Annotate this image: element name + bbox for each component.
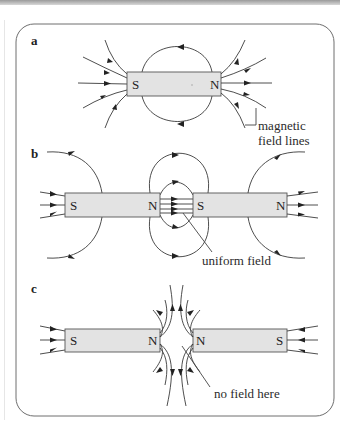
field-line xyxy=(221,40,245,74)
field-line xyxy=(47,152,102,193)
panel-c: c S N N S xyxy=(31,281,318,406)
field-line-loop xyxy=(149,217,208,257)
field-line xyxy=(221,93,245,128)
pole-s: S xyxy=(132,77,139,92)
field-line-loop xyxy=(160,215,193,228)
bar-magnet-left xyxy=(65,193,160,217)
panel-c-label: c xyxy=(31,281,37,296)
pole-s: S xyxy=(70,333,77,348)
bar-magnet-right xyxy=(193,329,287,352)
field-line xyxy=(78,83,127,84)
panel-a: a S N magnetic xyxy=(31,33,310,148)
field-line-loop-top xyxy=(142,47,212,73)
field-line-loop xyxy=(149,153,208,193)
field-line xyxy=(160,348,167,385)
field-line-loop-bottom xyxy=(142,96,212,122)
field-line xyxy=(160,344,171,406)
panel-a-label: a xyxy=(31,33,38,48)
pole-n: N xyxy=(148,333,158,348)
field-line xyxy=(160,300,167,333)
pole-n: N xyxy=(148,198,158,213)
pole-s: S xyxy=(197,198,204,213)
field-line xyxy=(105,94,127,128)
panel-b: b S N S xyxy=(31,146,318,268)
pole-s: S xyxy=(276,333,283,348)
bar-magnet-left xyxy=(65,329,160,352)
magnetic-field-diagram: a S N magnetic xyxy=(0,0,351,431)
field-line xyxy=(186,300,193,333)
panel-b-label: b xyxy=(31,146,38,161)
pole-s: S xyxy=(70,198,77,213)
annotation-magnetic: magnetic xyxy=(258,118,306,133)
pole-n: N xyxy=(276,198,286,213)
bar-magnet-right xyxy=(193,193,287,217)
field-line-loop xyxy=(160,182,193,195)
annotation-field-lines: field lines xyxy=(258,133,310,148)
pole-n: N xyxy=(196,333,206,348)
pole-n: N xyxy=(210,77,220,92)
field-line xyxy=(47,217,102,258)
field-line xyxy=(83,90,127,108)
bar-magnet xyxy=(127,72,221,96)
annotation-bracket xyxy=(245,108,256,125)
annotation-no-field-here: no field here xyxy=(214,386,280,401)
annotation-uniform-field: uniform field xyxy=(202,253,271,268)
